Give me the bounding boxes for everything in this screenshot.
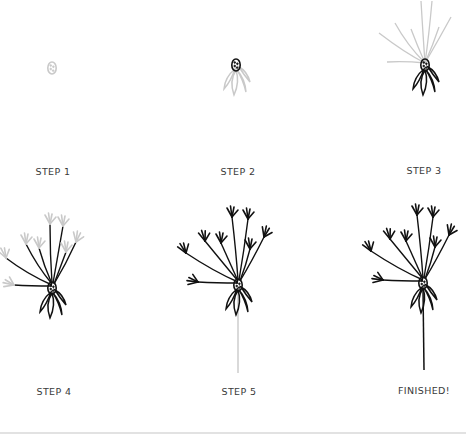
step-5-label: STEP 5	[221, 386, 256, 397]
step-3-drawing	[379, 1, 451, 95]
step-4-label: STEP 4	[36, 386, 71, 397]
stalk-guides	[379, 1, 451, 63]
stalks	[186, 217, 264, 283]
finished-drawing	[362, 204, 459, 370]
step-4-drawing	[0, 213, 85, 318]
step-2-label: STEP 2	[220, 166, 255, 177]
finished-label: FINISHED!	[398, 385, 450, 396]
bottom-divider	[0, 432, 466, 434]
step-1-label: STEP 1	[35, 166, 70, 177]
step-1-drawing	[48, 62, 56, 74]
seed-head-outline	[48, 62, 56, 74]
step-3-label: STEP 3	[406, 165, 441, 176]
tutorial-canvas	[0, 0, 466, 437]
step-5-drawing	[177, 206, 274, 373]
step-2-drawing	[224, 59, 250, 95]
stalks	[371, 215, 449, 281]
stalks	[6, 224, 76, 286]
